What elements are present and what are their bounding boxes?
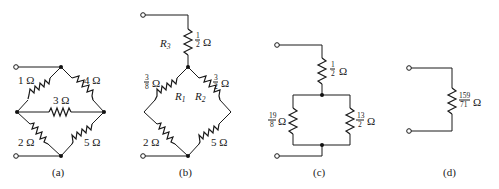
label-r3-name: R3 — [159, 37, 171, 51]
panel-c: 1 2 Ω 19 8 Ω 13 2 Ω (c) — [268, 43, 375, 179]
eq-unit: Ω — [473, 96, 481, 108]
resistor-r3 — [184, 29, 192, 67]
circuit-figure: 1 Ω 4 Ω 3 Ω 2 Ω 5 Ω (a) R3 1 2 Ω — [0, 0, 499, 189]
caption-d: (d) — [443, 166, 456, 179]
label-1-ohm: 1 Ω — [18, 74, 34, 86]
terminal-bottom — [141, 154, 146, 159]
right-denominator: 2 — [358, 120, 362, 129]
resistor-5-ohm — [61, 112, 104, 156]
label-5-ohm: 5 Ω — [211, 136, 227, 148]
panel-d: 159 71 Ω (d) — [407, 66, 481, 179]
resistor-13-2-ohm — [346, 95, 354, 145]
resistor-2-ohm — [144, 112, 188, 156]
caption-a: (a) — [52, 166, 65, 179]
eq-numerator: 159 — [459, 91, 471, 100]
left-numerator: 19 — [269, 111, 277, 120]
caption-b: (b) — [179, 166, 192, 179]
r2-denominator: 2 — [214, 82, 218, 91]
r3-unit: Ω — [203, 36, 211, 48]
resistor-159-71-ohm — [448, 88, 456, 131]
node — [186, 154, 190, 158]
terminal-top — [14, 65, 19, 70]
r2-unit: Ω — [221, 77, 229, 89]
terminal-bottom — [14, 154, 19, 159]
terminal-top — [141, 13, 146, 18]
panel-a: 1 Ω 4 Ω 3 Ω 2 Ω 5 Ω (a) — [14, 65, 106, 179]
r3-numerator: 1 — [196, 31, 200, 40]
r1-numerator: 3 — [145, 73, 149, 82]
node — [186, 65, 190, 69]
node — [15, 110, 19, 114]
r1-denominator: 8 — [145, 82, 149, 91]
r2-numerator: 3 — [214, 73, 218, 82]
left-denominator: 8 — [270, 120, 274, 129]
series-numerator: 1 — [331, 60, 335, 69]
r1-unit: Ω — [152, 77, 160, 89]
resistor-5-ohm — [188, 112, 231, 156]
r3-denominator: 2 — [196, 40, 200, 49]
label-2-ohm: 2 Ω — [18, 136, 34, 148]
caption-c: (c) — [313, 166, 326, 179]
label-5-ohm: 5 Ω — [84, 136, 100, 148]
label-4-ohm: 4 Ω — [84, 74, 100, 86]
label-r2-name: R2 — [194, 90, 206, 104]
label-2-ohm: 2 Ω — [143, 136, 159, 148]
node — [320, 93, 324, 97]
eq-denominator: 71 — [460, 100, 468, 109]
node — [59, 154, 63, 158]
resistor-2-ohm — [17, 112, 61, 156]
right-numerator: 13 — [357, 111, 365, 120]
series-denominator: 2 — [331, 69, 335, 78]
label-r1-name: R1 — [174, 90, 185, 104]
node — [320, 143, 324, 147]
panel-b: R3 1 2 Ω — [141, 13, 231, 179]
node — [102, 110, 106, 114]
node — [59, 65, 63, 69]
terminal-top — [275, 43, 280, 48]
resistor-19-8-ohm — [289, 95, 297, 145]
terminal-bottom — [407, 129, 412, 134]
resistor-3-ohm — [17, 108, 104, 116]
resistor-half-ohm — [318, 58, 326, 95]
right-unit: Ω — [367, 115, 375, 127]
label-3-ohm: 3 Ω — [53, 94, 69, 106]
terminal-top — [407, 66, 412, 71]
terminal-bottom — [275, 154, 280, 159]
left-unit: Ω — [278, 115, 286, 127]
series-unit: Ω — [339, 65, 347, 77]
